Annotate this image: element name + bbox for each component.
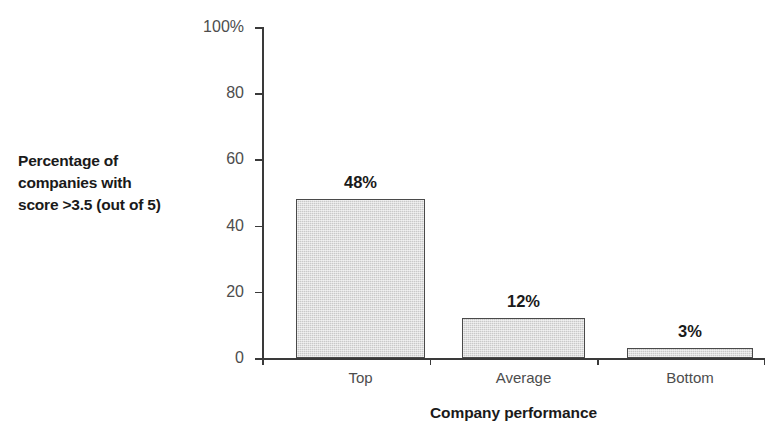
y-axis-line [262, 27, 264, 358]
x-category-label-average: Average [496, 369, 552, 386]
x-category-label-bottom: Bottom [666, 369, 714, 386]
y-tick-40: 40 [255, 226, 262, 228]
y-tick-label-20: 20 [226, 283, 244, 301]
y-tick-label-0: 0 [235, 349, 244, 367]
y-tick-100: 100% [255, 27, 262, 29]
bar-chart-figure: Percentage of companies with score >3.5 … [0, 0, 777, 441]
y-axis-title: Percentage of companies with score >3.5 … [18, 150, 198, 216]
x-tick-boundary-1 [430, 358, 432, 365]
bar-value-average: 12% [507, 292, 540, 311]
x-tick-boundary-0 [262, 358, 264, 365]
bar-bottom [627, 348, 753, 358]
y-tick-20: 20 [255, 292, 262, 294]
x-tick-boundary-3 [764, 358, 766, 365]
bar-average [462, 318, 585, 358]
bar-top [296, 199, 425, 358]
plot-area: 0 20 40 60 80 100% 48% 12% 3% Top Av [262, 27, 765, 358]
bar-value-bottom: 3% [678, 322, 702, 341]
x-axis-title: Company performance [262, 404, 765, 422]
y-tick-label-80: 80 [226, 84, 244, 102]
bar-value-top: 48% [344, 173, 377, 192]
y-tick-label-60: 60 [226, 150, 244, 168]
y-tick-60: 60 [255, 159, 262, 161]
y-tick-80: 80 [255, 93, 262, 95]
y-tick-label-100: 100% [203, 18, 244, 36]
y-tick-0: 0 [255, 358, 262, 360]
x-axis-line [262, 358, 765, 360]
x-category-label-top: Top [348, 369, 372, 386]
y-tick-label-40: 40 [226, 216, 244, 234]
x-tick-boundary-2 [597, 358, 599, 365]
